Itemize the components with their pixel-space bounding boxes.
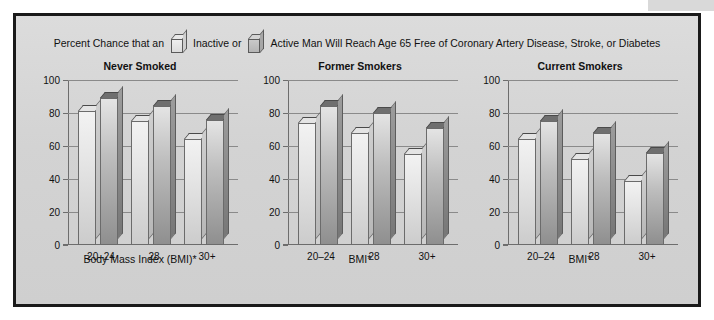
bar-front-face	[593, 133, 611, 245]
bar-front-face	[373, 113, 391, 245]
y-axis-tick	[283, 113, 288, 114]
swatch-front-face	[248, 39, 260, 53]
bar-group	[571, 80, 617, 245]
panel-title: Never Smoked	[30, 60, 250, 72]
bar-active[interactable]	[206, 120, 224, 245]
bar-side-face	[224, 108, 229, 239]
bar-front-face	[426, 128, 444, 245]
y-axis-tick-label: 80	[49, 108, 60, 119]
bar-inactive[interactable]	[78, 111, 96, 245]
bar-inactive[interactable]	[624, 181, 642, 245]
swatch-front-face	[171, 39, 183, 53]
y-axis-tick-label: 100	[483, 75, 500, 86]
chart-figure-frame: Percent Chance that an Inactive or Activ…	[13, 13, 701, 307]
bar-front-face	[518, 139, 536, 245]
swatch-side-face	[183, 29, 187, 53]
y-axis-tick-label: 0	[494, 240, 500, 251]
chart-figure-background: Percent Chance that an Inactive or Activ…	[16, 16, 698, 304]
bar-front-face	[351, 133, 369, 245]
bar-inactive[interactable]	[298, 123, 316, 245]
bar-active[interactable]	[540, 121, 558, 245]
bar-active[interactable]	[593, 133, 611, 245]
plot-area: 02040608010020–242830+	[508, 80, 678, 245]
plot-area: 02040608010020–242830+	[288, 80, 458, 245]
bar-active[interactable]	[320, 106, 338, 245]
bar-side-face	[611, 121, 616, 239]
bar-inactive[interactable]	[131, 121, 149, 245]
x-axis-title: Body Mass Index (BMI)*	[30, 253, 250, 265]
y-axis-tick	[63, 80, 68, 81]
bar-group	[351, 80, 397, 245]
y-axis-tick-label: 40	[49, 174, 60, 185]
bar-side-face	[558, 109, 563, 239]
legend-inactive-label: Inactive or	[193, 38, 241, 49]
bar-group	[78, 80, 124, 245]
bar-front-face	[100, 98, 118, 245]
bar-inactive[interactable]	[184, 139, 202, 245]
y-axis-tick	[63, 179, 68, 180]
x-axis-title: BMI*	[470, 253, 690, 265]
y-axis-tick	[283, 80, 288, 81]
bar-swatch-dark-icon	[248, 34, 263, 53]
chart-panels-container: Never Smoked 02040608010020–242830+ Body…	[16, 60, 698, 300]
bar-side-face	[391, 101, 396, 239]
y-axis-tick-label: 20	[489, 207, 500, 218]
panel-never-smoked: Never Smoked 02040608010020–242830+ Body…	[30, 60, 250, 300]
y-axis-tick-label: 0	[274, 240, 280, 251]
bar-inactive[interactable]	[404, 154, 422, 245]
bar-front-face	[571, 159, 589, 245]
y-axis-tick-label: 100	[263, 75, 280, 86]
y-axis-tick	[63, 146, 68, 147]
bar-active[interactable]	[100, 98, 118, 245]
chart-legend: Percent Chance that an Inactive or Activ…	[16, 28, 698, 58]
y-axis-tick	[503, 80, 508, 81]
bar-front-face	[320, 106, 338, 245]
bar-front-face	[646, 153, 664, 245]
y-axis-tick-label: 80	[489, 108, 500, 119]
panel-title: Current Smokers	[470, 60, 690, 72]
y-axis-tick-label: 40	[269, 174, 280, 185]
y-axis-tick	[503, 146, 508, 147]
bar-inactive[interactable]	[571, 159, 589, 245]
bar-group	[298, 80, 344, 245]
bar-active[interactable]	[646, 153, 664, 245]
y-axis-tick	[63, 113, 68, 114]
y-axis-tick-label: 60	[49, 141, 60, 152]
y-axis-tick	[283, 146, 288, 147]
bar-inactive[interactable]	[351, 133, 369, 245]
y-axis-tick	[503, 179, 508, 180]
y-axis-line	[288, 80, 289, 245]
bar-front-face	[404, 154, 422, 245]
bar-active[interactable]	[426, 128, 444, 245]
bar-active[interactable]	[373, 113, 391, 245]
bar-group	[404, 80, 450, 245]
bar-side-face	[171, 94, 176, 239]
bar-front-face	[624, 181, 642, 245]
y-axis-tick-label: 60	[489, 141, 500, 152]
y-axis-tick	[63, 245, 68, 246]
top-right-blank-patch	[648, 0, 714, 11]
bar-side-face	[338, 94, 343, 239]
bar-front-face	[298, 123, 316, 245]
bar-side-face	[118, 86, 123, 239]
legend-prefix-text: Percent Chance that an	[54, 38, 164, 49]
bar-side-face	[664, 141, 669, 239]
y-axis-tick	[503, 212, 508, 213]
y-axis-tick	[283, 179, 288, 180]
bar-active[interactable]	[153, 106, 171, 245]
y-axis-tick	[283, 245, 288, 246]
y-axis-tick	[283, 212, 288, 213]
y-axis-tick-label: 60	[269, 141, 280, 152]
bar-front-face	[206, 120, 224, 245]
y-axis-tick	[503, 245, 508, 246]
y-axis-tick-label: 20	[269, 207, 280, 218]
x-axis-title: BMI*	[250, 253, 470, 265]
y-axis-line	[68, 80, 69, 245]
y-axis-line	[508, 80, 509, 245]
panel-title: Former Smokers	[250, 60, 470, 72]
y-axis-tick-label: 0	[54, 240, 60, 251]
bar-inactive[interactable]	[518, 139, 536, 245]
bar-front-face	[540, 121, 558, 245]
y-axis-tick	[503, 113, 508, 114]
bar-front-face	[184, 139, 202, 245]
